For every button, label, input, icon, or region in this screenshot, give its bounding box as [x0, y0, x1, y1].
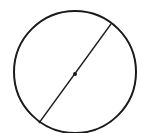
center-point: [73, 72, 77, 76]
diagram-canvas: [0, 0, 141, 133]
